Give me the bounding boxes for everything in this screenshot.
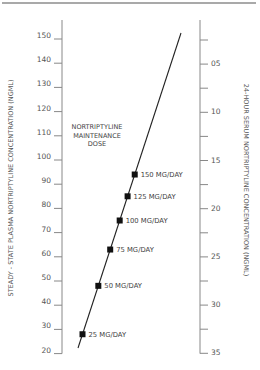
- data-point-marker: [117, 218, 123, 224]
- data-point-label: 25 MG/DAY: [88, 331, 126, 339]
- data-point-marker: [79, 331, 85, 337]
- y-tick-label: 140: [37, 55, 52, 64]
- y-tick-label: 40: [41, 297, 51, 306]
- data-point-marker: [132, 172, 138, 178]
- data-point-label: 150 MG/DAY: [141, 171, 184, 179]
- y2-tick-label: 20: [211, 204, 221, 213]
- y2-tick-label: 25: [211, 252, 221, 261]
- data-point-label: 50 MG/DAY: [104, 282, 142, 290]
- annotation-line: NORTRIPTYLINE: [72, 123, 123, 131]
- right-y-axis: 05101520253035: [200, 20, 221, 357]
- y-tick-label: 130: [37, 79, 52, 88]
- y2-tick-label: 05: [211, 59, 221, 68]
- y-tick-label: 30: [41, 321, 51, 330]
- data-point-marker: [95, 283, 101, 289]
- y-tick-label: 110: [37, 128, 52, 137]
- left-axis-title: STEADY - STATE PLASMA NORTRIPTYLINE CONC…: [7, 80, 15, 297]
- y2-tick-label: 10: [211, 107, 221, 116]
- annotation-line: MAINTENANCE: [73, 132, 121, 140]
- y-tick-label: 50: [41, 273, 51, 282]
- data-point-label: 75 MG/DAY: [116, 246, 154, 254]
- dose-series: 25 MG/DAY50 MG/DAY75 MG/DAY100 MG/DAY125…: [78, 33, 184, 348]
- annotation-line: DOSE: [88, 140, 106, 148]
- y-tick-label: 60: [41, 249, 51, 258]
- y-tick-label: 150: [37, 31, 52, 40]
- y-tick-label: 120: [37, 104, 52, 113]
- y-tick-label: 70: [41, 225, 51, 234]
- data-point-marker: [107, 247, 113, 253]
- nomogram-chart: 1501401301201101009080706050403020 05101…: [0, 0, 260, 370]
- y-tick-label: 90: [41, 176, 51, 185]
- y-tick-label: 80: [41, 200, 51, 209]
- y2-tick-label: 30: [211, 300, 221, 309]
- regression-line: [78, 33, 181, 348]
- y2-tick-label: 15: [211, 156, 221, 165]
- y-tick-label: 20: [41, 346, 51, 355]
- data-point-label: 125 MG/DAY: [134, 193, 177, 201]
- data-point-label: 100 MG/DAY: [126, 217, 169, 225]
- y-tick-label: 100: [37, 152, 52, 161]
- y2-tick-label: 35: [211, 348, 221, 357]
- left-y-axis: 1501401301201101009080706050403020: [37, 20, 62, 355]
- nortriptyline-dose-annotation: NORTRIPTYLINEMAINTENANCEDOSE: [72, 123, 123, 148]
- data-point-marker: [125, 193, 131, 199]
- right-axis-title: 24-HOUR SERUM NORTRIPTYLINE CONCENTRATIO…: [242, 84, 250, 276]
